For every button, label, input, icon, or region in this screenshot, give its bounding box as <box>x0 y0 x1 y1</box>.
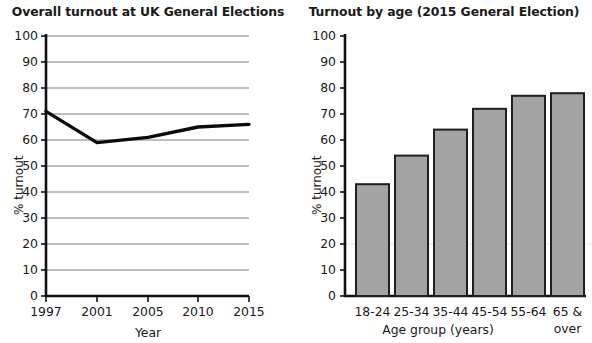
bar <box>473 109 506 296</box>
bar <box>356 184 389 296</box>
chart-panel-turnout-by-age: Turnout by age (2015 General Election) <box>296 0 592 343</box>
y-tick-label: 10 <box>2 264 38 276</box>
y-tick-label: 100 <box>2 30 38 42</box>
x-tick-label: 2010 <box>173 305 223 318</box>
figure-canvas: Overall turnout at UK General Elections <box>0 0 592 343</box>
x-tick-label: 2015 <box>224 305 274 318</box>
y-tick-label: 80 <box>300 82 336 94</box>
turnout-line-series <box>46 111 249 142</box>
y-tick-label: 0 <box>2 290 38 302</box>
y-tick-label: 70 <box>300 108 336 120</box>
chart-panel-overall-turnout: Overall turnout at UK General Elections <box>0 0 296 343</box>
bar <box>551 93 584 296</box>
bar-chart-plot <box>296 0 592 343</box>
y-tick-label: 80 <box>2 82 38 94</box>
bar <box>434 130 467 296</box>
y-tick-label: 60 <box>300 134 336 146</box>
x-tick-label: 1997 <box>21 305 71 318</box>
y-tick-label: 100 <box>300 30 336 42</box>
y-axis-title: % turnout <box>310 155 324 215</box>
bar <box>512 96 545 296</box>
y-tick-label: 90 <box>300 56 336 68</box>
y-tick-label: 10 <box>300 264 336 276</box>
y-axis-title: % turnout <box>12 155 26 215</box>
y-tick-label: 90 <box>2 56 38 68</box>
y-tick-label: 0 <box>300 290 336 302</box>
x-tick-label: 65 & <box>541 305 592 318</box>
y-tick-label: 20 <box>300 238 336 250</box>
y-tick-label: 70 <box>2 108 38 120</box>
x-axis-title: Year <box>98 325 198 340</box>
y-tick-label: 60 <box>2 134 38 146</box>
x-tick-label: 2005 <box>123 305 173 318</box>
line-chart-plot <box>0 0 296 343</box>
y-tick-label: 20 <box>2 238 38 250</box>
bar-series <box>356 93 584 296</box>
x-tick-label: 2001 <box>72 305 122 318</box>
x-tick-label-secondline: over <box>541 322 592 335</box>
gridlines-horizontal <box>46 36 249 270</box>
x-axis-title: Age group (years) <box>368 322 508 337</box>
bar <box>395 156 428 296</box>
